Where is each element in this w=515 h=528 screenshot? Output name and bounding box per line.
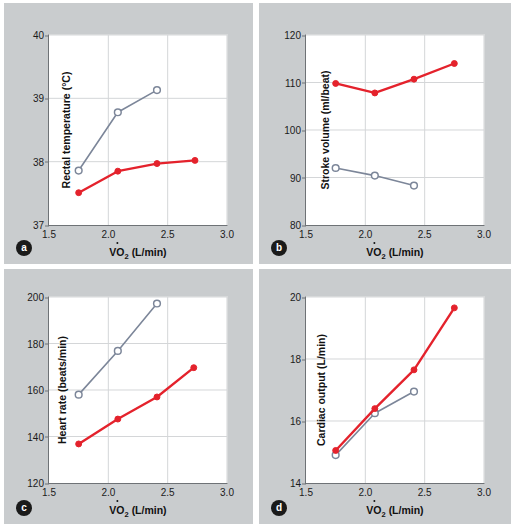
plot-area-a: 373839401.52.02.53.0 [48,34,228,226]
y-tick-a-38: 38 [33,156,44,167]
figure-root: 26 °C (78 °F) 43 °C (110 °F) a 373839401… [0,0,515,528]
y-tick-d-20: 20 [290,292,301,303]
x-tick-a-2.5: 2.5 [161,229,175,240]
panel-badge-b: b [271,240,287,256]
x-axis-label-c: VO2 (L/min) [109,504,166,519]
plot-area-b: 80901001101201.52.02.53.0 [305,34,485,226]
x-tick-a-3: 3.0 [220,229,234,240]
y-tick-c-160: 160 [27,385,44,396]
x-axis-label-a: VO2 (L/min) [109,246,166,261]
x-axis-label-b: VO2 (L/min) [366,246,423,261]
chart-c: 1201401601802001.52.02.53.0 Heart rate (… [48,296,228,484]
x-tick-a-2: 2.0 [101,229,115,240]
plot-svg-a [49,35,227,225]
y-tick-b-110: 110 [285,77,301,88]
panel-badge-a: a [16,240,32,256]
panel-badge-d: d [271,500,287,516]
y-axis-label-d: Cardiac output (L/min) [315,334,327,446]
y-tick-c-200: 200 [27,292,44,303]
x-axis-label-d: VO2 (L/min) [366,504,423,519]
y-tick-c-180: 180 [27,338,44,349]
y-tick-a-39: 39 [33,93,44,104]
plot-svg-b [306,35,484,225]
plot-area-c: 1201401601802001.52.02.53.0 [48,296,228,484]
plot-svg-d [306,297,484,483]
y-tick-d-18: 18 [290,354,301,365]
chart-a: 373839401.52.02.53.0 Rectal temperature … [48,34,228,226]
x-tick-d-1.5: 1.5 [299,487,313,498]
y-axis-label-a: Rectal temperature (°C) [60,72,72,189]
y-tick-a-40: 40 [33,30,44,41]
x-tick-c-1.5: 1.5 [42,487,56,498]
x-tick-d-2.5: 2.5 [418,487,432,498]
x-tick-d-2: 2.0 [358,487,372,498]
x-tick-c-3: 3.0 [220,487,234,498]
x-tick-b-3: 3.0 [477,229,491,240]
y-axis-label-b: Stroke volume (ml/beat) [319,70,331,189]
x-tick-d-3: 3.0 [477,487,491,498]
y-tick-b-90: 90 [290,172,301,183]
x-tick-b-2: 2.0 [358,229,372,240]
x-tick-c-2.5: 2.5 [161,487,175,498]
y-tick-d-16: 16 [290,416,301,427]
chart-b: 80901001101201.52.02.53.0 Stroke volume … [305,34,485,226]
chart-d: 141618201.52.02.53.0 Cardiac output (L/m… [305,296,485,484]
y-tick-b-120: 120 [284,30,301,41]
y-tick-c-140: 140 [27,431,44,442]
x-tick-c-2: 2.0 [101,487,115,498]
y-axis-label-c: Heart rate (beats/min) [56,336,68,444]
x-tick-b-2.5: 2.5 [418,229,432,240]
y-tick-b-100: 100 [284,125,301,136]
plot-area-d: 141618201.52.02.53.0 [305,296,485,484]
panel-badge-c: c [16,500,32,516]
x-tick-b-1.5: 1.5 [299,229,313,240]
plot-svg-c [49,297,227,483]
x-tick-a-1.5: 1.5 [42,229,56,240]
